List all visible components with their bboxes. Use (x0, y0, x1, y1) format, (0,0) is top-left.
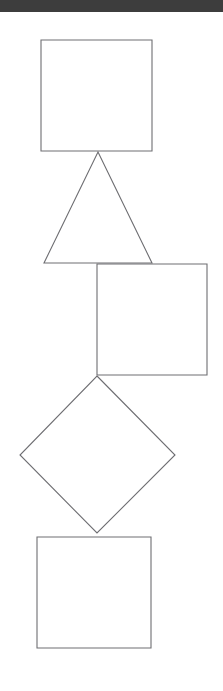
diamond (20, 376, 175, 533)
triangle (44, 152, 152, 263)
shape-diagram (0, 0, 223, 691)
shape-chain-canvas (0, 0, 223, 691)
square-top (41, 40, 152, 151)
square-right (97, 264, 207, 375)
square-bottom (37, 537, 151, 648)
